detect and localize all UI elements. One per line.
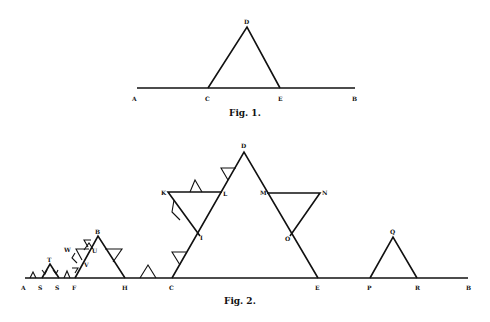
small-tri-13 bbox=[30, 272, 36, 278]
label-e: E bbox=[315, 284, 320, 291]
label-w: W bbox=[63, 246, 71, 253]
small-tri-5 bbox=[140, 265, 156, 278]
small-tri-11 bbox=[72, 268, 78, 273]
figure-2-caption: Fig. 2. bbox=[224, 296, 256, 306]
label-s2: S bbox=[55, 284, 59, 291]
label-h: H bbox=[122, 284, 128, 291]
label-a: A bbox=[20, 284, 26, 291]
label-b-end: B bbox=[466, 284, 471, 291]
triangle-cde bbox=[208, 27, 280, 88]
label-o: O bbox=[285, 235, 290, 242]
triangle-pqr bbox=[370, 237, 417, 278]
label-b: B bbox=[352, 95, 357, 102]
label-d: D bbox=[244, 18, 249, 25]
koch-construction-diagram: A C D E B Fig. 1. bbox=[0, 0, 490, 322]
label-p: P bbox=[367, 284, 372, 291]
triangle-fbh bbox=[75, 236, 125, 278]
label-l: L bbox=[223, 190, 228, 197]
label-q: Q bbox=[390, 228, 395, 236]
triangle-kli bbox=[168, 192, 222, 236]
label-a: A bbox=[131, 95, 137, 102]
label-t: T bbox=[47, 256, 52, 263]
label-r: R bbox=[415, 284, 421, 291]
label-n: N bbox=[322, 189, 328, 196]
label-m: M bbox=[260, 189, 267, 196]
label-c: C bbox=[169, 284, 174, 291]
triangle-sts bbox=[42, 264, 59, 278]
figure-1-caption: Fig. 1. bbox=[229, 108, 261, 118]
small-tri-14 bbox=[42, 270, 47, 274]
figure-2: A S T S F W U V B H C D K L I M N O E P … bbox=[20, 142, 471, 306]
label-e: E bbox=[278, 95, 283, 102]
label-d: D bbox=[241, 142, 246, 149]
small-tri-12 bbox=[64, 271, 70, 278]
small-tri-10 bbox=[72, 253, 77, 263]
label-v: V bbox=[83, 261, 89, 268]
label-f: F bbox=[72, 284, 77, 291]
small-tri-1 bbox=[190, 180, 202, 192]
label-s1: S bbox=[38, 284, 42, 291]
triangle-cde bbox=[172, 152, 318, 278]
label-c: C bbox=[205, 95, 210, 102]
triangle-mno bbox=[267, 193, 320, 236]
label-i: I bbox=[200, 234, 203, 241]
label-u: U bbox=[92, 247, 98, 254]
label-b-point: B bbox=[95, 228, 100, 235]
label-k: K bbox=[161, 189, 167, 196]
figure-1: A C D E B Fig. 1. bbox=[131, 18, 357, 118]
